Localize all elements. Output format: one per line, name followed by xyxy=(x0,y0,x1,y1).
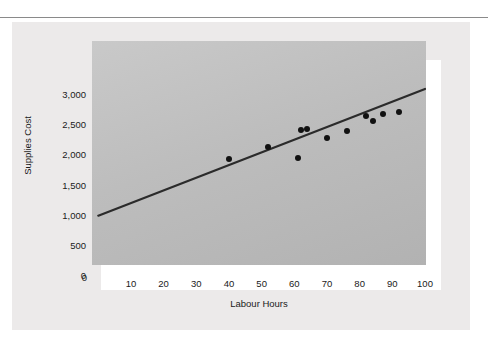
trend-line-svg xyxy=(92,41,426,265)
x-axis-ticks: 1020304050607080901000 xyxy=(0,278,488,294)
x-axis-origin-label: 0 xyxy=(70,272,98,283)
scatter-point xyxy=(295,155,301,161)
y-tick-label: 1,500 xyxy=(62,180,86,191)
x-tick-label: 50 xyxy=(248,278,276,289)
x-tick-label: 100 xyxy=(411,278,439,289)
x-tick-label: 10 xyxy=(117,278,145,289)
scatter-point xyxy=(380,111,386,117)
plot-area xyxy=(92,41,426,265)
scatter-point xyxy=(324,135,330,141)
scatter-point xyxy=(344,128,350,134)
x-tick-label: 40 xyxy=(215,278,243,289)
y-tick-label: 3,000 xyxy=(62,89,86,100)
x-tick-label: 60 xyxy=(280,278,308,289)
y-tick-label: 1,000 xyxy=(62,210,86,221)
scatter-point xyxy=(370,118,376,124)
x-tick-label: 20 xyxy=(150,278,178,289)
y-tick-label: 2,500 xyxy=(62,119,86,130)
x-tick-label: 70 xyxy=(313,278,341,289)
y-axis-label: Supplies Cost xyxy=(22,100,33,192)
x-tick-label: 30 xyxy=(182,278,210,289)
scatter-point xyxy=(226,156,232,162)
trend-line xyxy=(98,89,425,216)
y-tick-label: 500 xyxy=(70,240,86,251)
scatter-point xyxy=(396,109,402,115)
y-tick-label: 2,000 xyxy=(62,149,86,160)
x-tick-label: 80 xyxy=(346,278,374,289)
scatter-point xyxy=(298,127,304,133)
x-tick-label: 90 xyxy=(378,278,406,289)
x-axis-label: Labour Hours xyxy=(89,298,429,309)
